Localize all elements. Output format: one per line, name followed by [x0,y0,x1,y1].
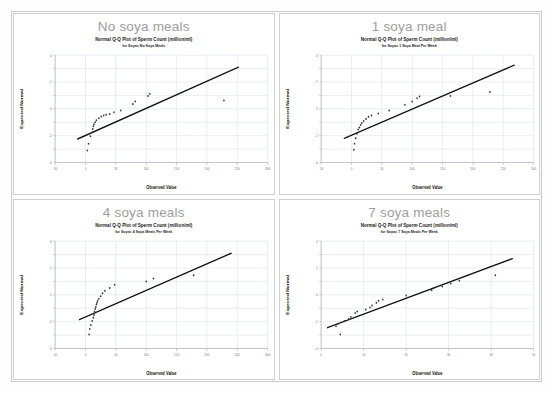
x-axis-title: Observed Value [412,184,443,189]
svg-text:0: 0 [85,352,87,356]
data-point [90,323,92,325]
svg-text:0: 0 [350,167,352,171]
data-point [103,115,105,117]
data-point [339,333,341,335]
data-point [120,109,122,111]
data-point [134,100,136,102]
data-point [132,103,134,105]
svg-text:-2: -2 [49,319,52,323]
data-point [449,282,451,284]
svg-text:300: 300 [265,167,270,171]
qq-plot-chart[interactable]: 01020304050-4-2024Observed ValueExpected… [280,234,540,380]
panel-one-soya-meal[interactable]: 1 soya meal Normal Q-Q Plot of Sperm Cou… [279,13,541,195]
data-point [362,120,364,122]
data-point [494,274,496,276]
qq-plot-chart[interactable]: -50050100150200250300-4-2024Observed Val… [14,234,274,380]
qq-plot-svg: -50050100150200250300-4-2024Observed Val… [14,48,274,194]
data-point [489,91,491,93]
data-point [430,289,432,291]
panel-heading: 7 soya meals [280,205,540,220]
data-point [337,322,339,324]
svg-text:250: 250 [235,352,240,356]
qq-plot-chart[interactable]: -50050100150200250300-4-2024Observed Val… [280,48,540,194]
qq-plot-svg: 01020304050-4-2024Observed ValueExpected… [280,234,540,380]
qq-plot-svg: -50050100150200250300-4-2024Observed Val… [14,234,274,380]
data-point [93,123,95,125]
svg-text:0: 0 [316,292,318,296]
data-point [89,328,91,330]
data-point [411,100,413,102]
svg-text:-2: -2 [314,134,317,138]
data-point [335,325,337,327]
data-point [369,306,371,308]
data-point [371,304,373,306]
data-point [356,310,358,312]
chart-title: Normal Q-Q Plot of Sperm Count (million/… [14,223,274,229]
data-point [93,125,95,127]
reference-line [327,258,512,327]
svg-text:-4: -4 [314,161,317,165]
svg-text:2: 2 [316,80,318,84]
data-point [354,311,356,313]
data-point [365,118,367,120]
panel-heading: 1 soya meal [280,19,540,34]
data-point [353,143,355,145]
data-point [358,127,360,129]
svg-text:150: 150 [174,352,179,356]
reference-line [79,253,231,319]
data-point [90,135,92,137]
svg-text:0: 0 [50,292,52,296]
data-point [367,116,369,118]
svg-text:4: 4 [316,239,318,243]
svg-text:0: 0 [320,352,322,356]
data-point [377,299,379,301]
data-point [375,301,377,303]
panel-grid: No soya meals Normal Q-Q Plot of Sperm C… [11,11,542,382]
svg-text:-4: -4 [314,346,317,350]
data-point [458,279,460,281]
data-point [96,301,98,303]
svg-text:30: 30 [446,352,449,356]
svg-text:150: 150 [174,167,179,171]
data-point [94,310,96,312]
data-point [109,113,111,115]
panel-seven-soya-meals[interactable]: 7 soya meals Normal Q-Q Plot of Sperm Co… [279,199,541,381]
reference-line [78,67,239,139]
svg-text:2: 2 [316,266,318,270]
data-point [147,95,149,97]
chart-title: Normal Q-Q Plot of Sperm Count (million/… [280,37,540,43]
data-point [364,308,366,310]
panel-four-soya-meals[interactable]: 4 soya meals Normal Q-Q Plot of Sperm Co… [13,199,275,381]
chart-title: Normal Q-Q Plot of Sperm Count (million/… [280,223,540,229]
svg-text:10: 10 [361,352,364,356]
svg-text:-4: -4 [49,161,52,165]
svg-text:200: 200 [470,167,475,171]
data-point [441,285,443,287]
data-point [92,128,94,130]
data-point [93,316,95,318]
data-point [357,129,359,131]
x-axis-title: Observed Value [146,184,177,189]
data-point [102,292,104,294]
svg-text:-2: -2 [314,319,317,323]
svg-text:-2: -2 [49,134,52,138]
data-point [360,122,362,124]
data-point [97,299,99,301]
x-axis-title: Observed Value [146,370,177,375]
y-axis-title: Expected Normal [19,89,23,129]
svg-text:300: 300 [265,352,270,356]
data-point [100,295,102,297]
svg-text:4: 4 [50,239,52,243]
reference-line [344,65,514,138]
svg-text:200: 200 [204,167,209,171]
svg-text:50: 50 [114,167,117,171]
svg-text:-50: -50 [53,352,57,356]
svg-text:300: 300 [531,167,536,171]
data-point [193,274,195,276]
panel-no-soya-meals[interactable]: No soya meals Normal Q-Q Plot of Sperm C… [13,13,275,195]
page-canvas: No soya meals Normal Q-Q Plot of Sperm C… [0,0,553,393]
svg-text:150: 150 [440,167,445,171]
qq-plot-chart[interactable]: -50050100150200250300-4-2024Observed Val… [14,48,274,194]
svg-text:20: 20 [404,352,407,356]
chart-title: Normal Q-Q Plot of Sperm Count (million/… [14,37,274,43]
